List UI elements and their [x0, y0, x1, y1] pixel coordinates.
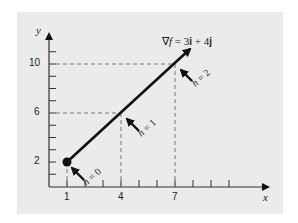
y-ticks: [49, 52, 56, 175]
x-axis-label: x: [263, 191, 268, 203]
y-tick-label-10: 10: [29, 57, 40, 68]
x-tick-label-4: 4: [118, 191, 124, 202]
y-axis-label: y: [36, 24, 41, 36]
x-tick-label-7: 7: [172, 191, 178, 202]
y-tick-label-2: 2: [34, 155, 40, 166]
nabla-symbol: ∇: [162, 35, 169, 47]
start-point: [63, 158, 72, 167]
gradient-plot: [0, 0, 298, 223]
h-pointer-arrows: [72, 70, 192, 180]
gradient-line: [67, 49, 190, 162]
x-tick-label-1: 1: [64, 191, 70, 202]
gradient-formula: ∇f = 3i + 4j: [162, 35, 212, 48]
y-tick-label-6: 6: [34, 106, 40, 117]
